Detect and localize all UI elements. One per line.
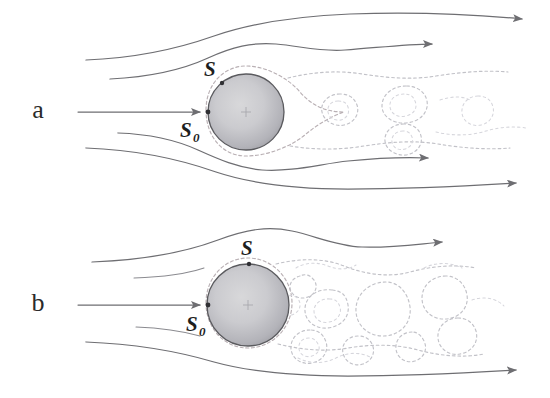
separation-sub-main-b: S bbox=[186, 312, 198, 336]
panel-label-a: a bbox=[32, 95, 44, 124]
wake-vortex-b-1 bbox=[290, 275, 316, 298]
wake-vortex-b-6-inner bbox=[299, 338, 319, 357]
separation-sub-index-a: 0 bbox=[193, 130, 200, 145]
separation-point-a bbox=[220, 81, 224, 85]
streamline-b-lower-outer bbox=[86, 342, 516, 376]
separation-sub-main-a: S bbox=[180, 118, 192, 142]
separation-sub-label-b: S 0 bbox=[186, 312, 206, 339]
flow-diagram-svg: a S S 0 bbox=[0, 0, 550, 398]
wake-squiggle-b-2 bbox=[298, 353, 370, 362]
streamline-a-upper-outer bbox=[86, 13, 522, 60]
flow-figure: a S S 0 bbox=[0, 0, 550, 398]
streamline-b-upper-outer bbox=[92, 229, 442, 262]
wake-dash-b-upper-boundary bbox=[276, 260, 476, 275]
wake-squiggle-b-4 bbox=[472, 298, 504, 306]
streamline-b-upper-inner bbox=[134, 268, 204, 278]
wake-tail-a-lower bbox=[436, 127, 526, 135]
wake-tail-a-upper bbox=[440, 97, 470, 100]
wake-vortex-b-5 bbox=[438, 318, 477, 354]
wake-vortex-a-2 bbox=[382, 86, 427, 123]
wake-vortex-b-7 bbox=[343, 336, 374, 365]
stagnation-point-b bbox=[206, 303, 211, 308]
panel-label-b: b bbox=[32, 288, 45, 317]
wake-vortex-b-2 bbox=[305, 290, 348, 328]
panel-a: a S S 0 bbox=[32, 13, 526, 189]
separation-sub-label-a: S 0 bbox=[180, 118, 200, 145]
streamline-a-upper-inner bbox=[110, 44, 432, 79]
wake-vortex-b-3 bbox=[356, 282, 410, 336]
separation-label-b: S bbox=[241, 236, 253, 260]
wake-dash-a-upper bbox=[288, 71, 508, 78]
wake-vortex-a-3-inner bbox=[392, 131, 413, 150]
stagnation-point-a bbox=[206, 110, 211, 115]
wake-vortex-a-4 bbox=[462, 96, 494, 125]
separation-sub-index-b: 0 bbox=[199, 324, 206, 339]
wake-dash-a-lower bbox=[290, 142, 510, 149]
separation-point-b bbox=[247, 262, 251, 266]
panel-b: b S S 0 bbox=[32, 229, 517, 376]
wake-vortex-a-2-inner bbox=[390, 94, 416, 117]
separation-label-a: S bbox=[204, 57, 216, 81]
wake-squiggle-b-1 bbox=[296, 263, 356, 269]
wake-vortex-a-1 bbox=[322, 94, 358, 125]
wake-vortex-a-3 bbox=[385, 124, 421, 155]
wake-vortex-b-2-inner bbox=[314, 299, 340, 323]
wake-vortex-b-6 bbox=[291, 330, 327, 363]
wake-vortex-b-4 bbox=[422, 276, 467, 319]
